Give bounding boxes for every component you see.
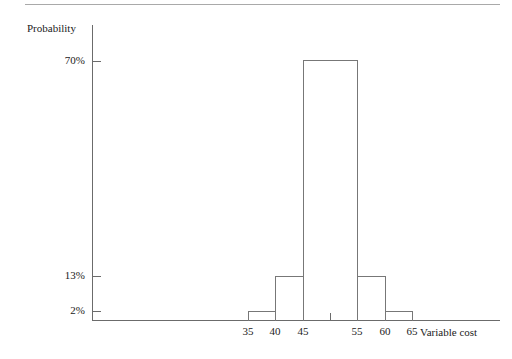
chart-page: Probability Variable cost 70% 13% 2% 35 … [0,0,512,359]
y-tick-label-13: 13% [33,269,85,281]
page-top-rule [25,4,500,5]
histogram-bar-55-60 [357,276,386,321]
histogram-bar-35-40 [248,311,276,321]
histogram-bar-60-65 [385,311,413,321]
x-axis-title: Variable cost [420,326,477,338]
y-tick-mark-13 [92,276,101,277]
x-tick-label-60: 60 [370,325,400,337]
y-tick-mark-70 [92,61,101,62]
x-tick-label-35: 35 [233,325,263,337]
y-axis-title: Probability [27,22,76,34]
x-tick-label-45: 45 [288,325,318,337]
histogram-bar-40-45 [275,276,304,321]
y-tick-label-70: 70% [33,54,85,66]
x-tick-label-55: 55 [342,325,372,337]
y-tick-mark-2 [92,311,101,312]
x-tick-label-40: 40 [260,325,290,337]
x-tick-label-65: 65 [397,325,427,337]
histogram-bar-45-55 [303,60,358,321]
y-tick-label-2: 2% [33,304,85,316]
